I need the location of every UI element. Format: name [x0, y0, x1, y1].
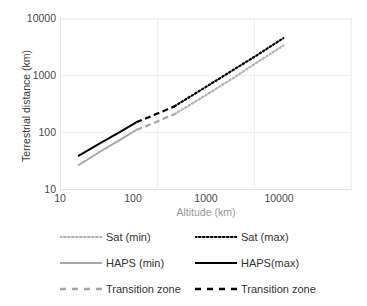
legend-item[interactable]: Sat (max) — [195, 224, 289, 250]
legend-row: HAPS (min)HAPS(max) — [0, 250, 367, 276]
series-line — [175, 46, 284, 115]
chart-figure: Terrestrial distance (km) 10000 1000 100… — [0, 0, 367, 306]
legend-swatch-icon — [60, 283, 102, 295]
series-line — [136, 106, 174, 122]
legend-item[interactable]: Sat (min) — [60, 224, 151, 250]
legend-swatch-icon — [60, 257, 102, 269]
series-line — [78, 122, 136, 156]
plot-area — [60, 18, 352, 190]
legend-swatch-icon — [195, 231, 237, 243]
y-tick-label: 10000 — [12, 12, 56, 24]
legend-item[interactable]: HAPS(max) — [195, 250, 299, 276]
legend-row: Transition zoneTransition zone — [0, 276, 367, 302]
legend-item[interactable]: Transition zone — [60, 276, 181, 302]
legend-item[interactable]: HAPS (min) — [60, 250, 164, 276]
legend-label: Transition zone — [241, 283, 316, 295]
chart-legend: Sat (min)Sat (max)HAPS (min)HAPS(max)Tra… — [0, 224, 367, 306]
data-series-layer — [61, 19, 351, 189]
legend-label: HAPS(max) — [241, 257, 299, 269]
legend-swatch-icon — [195, 283, 237, 295]
series-line — [175, 38, 284, 106]
series-line — [78, 130, 136, 165]
x-tick-label: 10000 — [249, 192, 309, 204]
legend-label: Sat (max) — [241, 231, 289, 243]
legend-item[interactable]: Transition zone — [195, 276, 316, 302]
x-tick-label: 10 — [30, 192, 90, 204]
legend-label: Transition zone — [106, 283, 181, 295]
x-axis-title: Altitude (km) — [60, 206, 352, 218]
x-tick-label: 1000 — [176, 192, 236, 204]
y-tick-label: 100 — [12, 126, 56, 138]
legend-swatch-icon — [60, 231, 102, 243]
legend-label: HAPS (min) — [106, 257, 164, 269]
legend-label: Sat (min) — [106, 231, 151, 243]
legend-swatch-icon — [195, 257, 237, 269]
legend-row: Sat (min)Sat (max) — [0, 224, 367, 250]
x-tick-label: 100 — [103, 192, 163, 204]
series-line — [136, 114, 174, 130]
y-tick-label: 1000 — [12, 69, 56, 81]
